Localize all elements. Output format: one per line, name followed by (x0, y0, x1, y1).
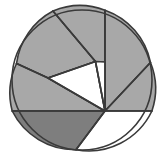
partitioned-circle-diagram (0, 0, 162, 162)
figure-container (0, 0, 162, 162)
